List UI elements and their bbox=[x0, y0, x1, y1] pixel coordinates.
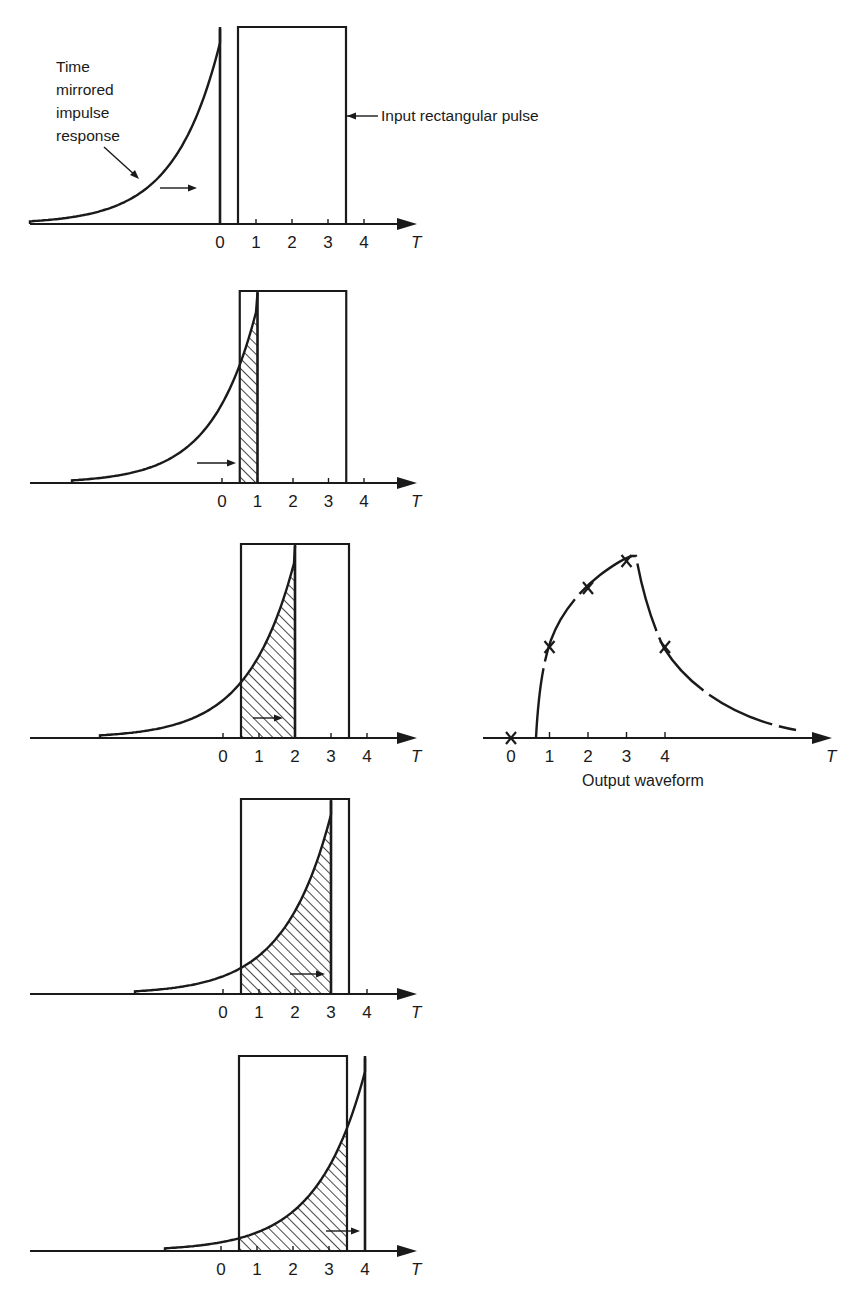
tick-label: 4 bbox=[362, 747, 371, 766]
tick-label: 3 bbox=[326, 747, 335, 766]
impulse-label-line-1: Time bbox=[56, 58, 90, 75]
tick-label: 2 bbox=[290, 747, 299, 766]
overlap-area bbox=[240, 306, 258, 483]
mirrored-impulse-response-curve bbox=[72, 293, 258, 483]
tick-label: 0 bbox=[215, 233, 224, 252]
tick-label: 4 bbox=[359, 492, 368, 511]
axis-arrow-icon bbox=[397, 477, 417, 489]
annotations: Time mirrored impulse response Input rec… bbox=[56, 58, 539, 179]
axis-label-T: T bbox=[411, 1260, 423, 1279]
tick-label: 3 bbox=[323, 233, 332, 252]
axis-label-T: T bbox=[411, 492, 423, 511]
output-waveform-plot: 01234T bbox=[483, 555, 838, 766]
axis-arrow-icon bbox=[812, 732, 832, 744]
shift-arrow-icon bbox=[227, 460, 236, 467]
pulse-label: Input rectangular pulse bbox=[381, 107, 539, 124]
panel-2: 01234T bbox=[30, 291, 423, 511]
overlap-area bbox=[241, 815, 331, 994]
tick-label: 4 bbox=[360, 1260, 369, 1279]
tick-label: 0 bbox=[216, 1260, 225, 1279]
axis-arrow-icon bbox=[397, 218, 417, 230]
tick-label: 2 bbox=[583, 747, 592, 766]
tick-label: 2 bbox=[288, 492, 297, 511]
tick-label: 0 bbox=[506, 747, 515, 766]
tick-label: 1 bbox=[252, 1260, 261, 1279]
impulse-label-line-2: mirrored bbox=[56, 81, 114, 98]
axis-arrow-icon bbox=[397, 1245, 417, 1257]
axis-label-T: T bbox=[411, 1003, 423, 1022]
tick-label: 2 bbox=[290, 1003, 299, 1022]
output-caption: Output waveform bbox=[582, 772, 704, 789]
tick-label: 1 bbox=[253, 492, 262, 511]
tick-label: 3 bbox=[622, 747, 631, 766]
tick-label: 3 bbox=[324, 492, 333, 511]
axis-arrow-icon bbox=[397, 988, 417, 1000]
impulse-label-pointer-icon bbox=[104, 147, 139, 179]
shift-arrow-icon bbox=[188, 185, 197, 192]
shift-arrow-icon bbox=[351, 1228, 360, 1235]
tick-label: 4 bbox=[359, 233, 368, 252]
input-rectangular-pulse bbox=[238, 27, 346, 224]
axis-arrow-icon bbox=[397, 732, 417, 744]
axis-label-T: T bbox=[411, 233, 423, 252]
impulse-label-line-3: impulse bbox=[56, 104, 109, 121]
tick-label: 4 bbox=[660, 747, 669, 766]
tick-label: 0 bbox=[218, 747, 227, 766]
tick-label: 0 bbox=[217, 492, 226, 511]
tick-label: 0 bbox=[218, 1003, 227, 1022]
panel-3: 01234T bbox=[30, 544, 423, 766]
tick-label: 1 bbox=[251, 233, 260, 252]
tick-label: 4 bbox=[362, 1003, 371, 1022]
tick-label: 2 bbox=[287, 233, 296, 252]
pulse-label-pointer-icon bbox=[347, 113, 378, 120]
impulse-label-line-4: response bbox=[56, 127, 120, 144]
tick-label: 1 bbox=[254, 1003, 263, 1022]
panel-5: 01234T bbox=[30, 1056, 423, 1279]
convolution-panels: 01234T01234T01234T01234T01234T bbox=[30, 27, 423, 1279]
tick-label: 1 bbox=[545, 747, 554, 766]
axis-label-T: T bbox=[826, 747, 838, 766]
tick-label: 3 bbox=[326, 1003, 335, 1022]
axis-label-T: T bbox=[411, 747, 423, 766]
tick-label: 2 bbox=[288, 1260, 297, 1279]
tick-label: 3 bbox=[324, 1260, 333, 1279]
tick-label: 1 bbox=[254, 747, 263, 766]
convolution-figure: 01234T01234T01234T01234T01234T Time mirr… bbox=[0, 0, 862, 1296]
panel-4: 01234T bbox=[30, 799, 423, 1022]
